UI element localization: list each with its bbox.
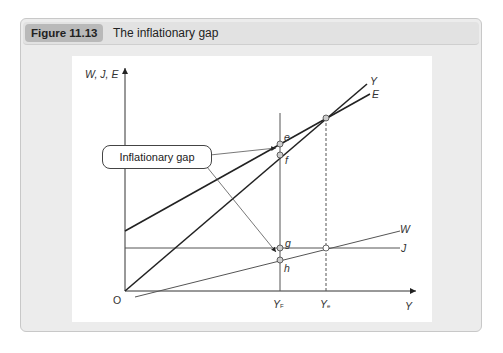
point-wj-intersect [323,245,329,251]
inflationary-gap-diagram [0,0,503,353]
w-line-label: W [400,223,410,235]
point-h [277,257,283,263]
point-e-label: e [284,131,290,143]
e-line-label: E [372,88,379,100]
yf-tick-label: YF [273,298,284,310]
point-h-label: h [284,262,290,274]
point-e [277,141,283,147]
j-line-label: J [401,242,406,254]
yf-sub: F [280,303,284,309]
point-g-label: g [285,237,291,249]
y-line-label: Y [370,75,377,87]
yf-main: Y [273,298,280,310]
ye-sub: e [327,303,330,309]
x-axis-label: Y [405,300,412,312]
point-g [277,245,283,251]
y-axis-label: W, J, E [85,68,118,80]
point-f-label: f [285,154,288,166]
ye-main: Y [320,298,327,310]
point-f [277,152,283,158]
ye-tick-label: Ye [320,298,330,310]
equilibrium-point [323,115,329,121]
inflationary-gap-callout: Inflationary gap [102,145,212,169]
origin-label: O [113,294,121,306]
